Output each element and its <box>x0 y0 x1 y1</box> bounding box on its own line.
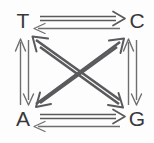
edge-C-to-A <box>36 47 117 107</box>
edge-G-to-T <box>33 37 121 101</box>
nucleotide-substitution-diagram: T C A G <box>0 0 154 143</box>
node-label-T: T <box>12 10 34 32</box>
edge-T-to-G <box>40 47 123 108</box>
edge-C-to-T <box>34 24 120 34</box>
edge-A-to-G <box>40 110 125 124</box>
edge-G-to-A <box>34 122 120 132</box>
node-label-G: G <box>126 108 148 130</box>
edge-T-to-C <box>40 12 125 26</box>
node-label-C: C <box>126 10 148 32</box>
node-label-A: A <box>12 108 34 130</box>
